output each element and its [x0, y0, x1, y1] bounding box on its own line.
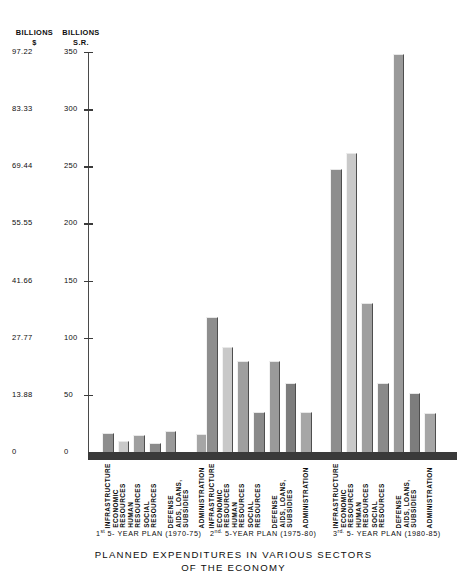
category-label-line: RESOURCES — [119, 483, 126, 528]
category-label: HUMANRESOURCES — [356, 483, 371, 528]
plan-captions: 1st 5- YEAR PLAN (1970-75)2nd. 5-YEAR PL… — [88, 528, 463, 542]
y-tick-label-dollars: 97.22 — [12, 47, 54, 57]
y-tick-label-dollars: 13.88 — [12, 390, 54, 400]
category-label-line: SOCIAL — [247, 483, 254, 528]
x-axis-baseline — [88, 452, 457, 460]
bar — [206, 317, 218, 452]
category-label-line: ADMINISTRATION — [302, 467, 309, 528]
category-label-line: SOCIAL — [371, 483, 378, 528]
category-label: ECONOMICRESOURCES — [340, 483, 355, 528]
chart-figure: BILLIONS $ BILLIONS S.R. 97.2235083.3330… — [0, 0, 467, 581]
y-tick-label-dollars: 41.66 — [12, 276, 54, 286]
category-label-line: SUBSIDIES — [410, 480, 417, 528]
category-label: INFRASTRUCTURE — [332, 463, 339, 528]
category-label: ECONOMICRESOURCES — [112, 483, 127, 528]
category-label-line: DEFENSE — [270, 495, 277, 528]
category-label-line: RESOURCES — [223, 483, 230, 528]
category-label-line: RESOURCES — [151, 483, 158, 528]
figure-title-line2: OF THE ECONOMY — [0, 561, 467, 574]
figure-title: PLANNED EXPENDITURES IN VARIOUS SECTORS … — [0, 548, 467, 574]
category-label-line: RESOURCES — [363, 483, 370, 528]
plan-caption: 1st 5- YEAR PLAN (1970-75) — [96, 528, 201, 538]
category-label: DEFENSE — [394, 495, 401, 528]
category-label-line: ADMINISTRATION — [426, 467, 433, 528]
bar — [269, 361, 281, 452]
plan-caption-text: 5- YEAR PLAN (1970-75) — [105, 529, 201, 538]
category-label: SOCIALRESOURCES — [143, 483, 158, 528]
bar — [330, 169, 342, 452]
bar — [300, 412, 312, 452]
category-label-line: AIDS, LOANS, — [175, 480, 182, 528]
category-label: ADMINISTRATION — [302, 467, 309, 528]
category-label-line: RESOURCES — [255, 483, 262, 528]
bars-layer — [88, 52, 457, 452]
category-label: INFRASTRUCTURE — [208, 463, 215, 528]
plan-caption-text: 5-YEAR PLAN (1975-80) — [222, 529, 316, 538]
category-labels: INFRASTRUCTUREECONOMICRESOURCESHUMANRESO… — [88, 460, 457, 528]
bar — [424, 413, 436, 452]
category-label-line: AIDS, LOANS, — [403, 480, 410, 528]
category-label: HUMANRESOURCES — [128, 483, 143, 528]
plan-caption: 2nd. 5-YEAR PLAN (1975-80) — [210, 528, 316, 538]
category-label: AIDS, LOANS,SUBSIDIES — [403, 480, 418, 528]
bar — [409, 393, 421, 452]
category-label-line: INFRASTRUCTURE — [104, 463, 111, 528]
category-label: ECONOMICRESOURCES — [216, 483, 231, 528]
y-tick-label-dollars: 0 — [12, 447, 54, 457]
category-label: SOCIALRESOURCES — [247, 483, 262, 528]
plan-caption: 3rd. 5- YEAR PLAN (1980-85) — [333, 528, 441, 538]
bar — [346, 153, 358, 452]
category-label: ADMINISTRATION — [426, 467, 433, 528]
category-label: DEFENSE — [166, 495, 173, 528]
bar — [222, 347, 234, 452]
category-label-line: ECONOMIC — [216, 483, 223, 528]
category-label-line: DEFENSE — [394, 495, 401, 528]
y-tick-label-dollars: 27.77 — [12, 333, 54, 343]
bar — [102, 433, 114, 452]
category-label-line: AIDS, LOANS, — [279, 480, 286, 528]
bar — [237, 361, 249, 452]
category-label: HUMANRESOURCES — [232, 483, 247, 528]
category-label-line: SOCIAL — [143, 483, 150, 528]
category-label: AIDS, LOANS,SUBSIDIES — [279, 480, 294, 528]
category-label-line: RESOURCES — [379, 483, 386, 528]
category-label: INFRASTRUCTURE — [104, 463, 111, 528]
category-label-line: ECONOMIC — [112, 483, 119, 528]
category-label-line: SUBSIDIES — [182, 480, 189, 528]
category-label-line: ADMINISTRATION — [198, 467, 205, 528]
bar — [133, 435, 145, 452]
y-tick-label-dollars: 83.33 — [12, 104, 54, 114]
category-label-line: SUBSIDIES — [286, 480, 293, 528]
category-label-line: RESOURCES — [347, 483, 354, 528]
bar — [377, 383, 389, 452]
bar — [253, 412, 265, 452]
figure-title-line1: PLANNED EXPENDITURES IN VARIOUS SECTORS — [95, 549, 373, 560]
category-label-line: INFRASTRUCTURE — [208, 463, 215, 528]
category-label-line: ECONOMIC — [340, 483, 347, 528]
y-tick-label-dollars: 69.44 — [12, 161, 54, 171]
bar — [118, 441, 130, 452]
category-label: SOCIALRESOURCES — [371, 483, 386, 528]
category-label: DEFENSE — [270, 495, 277, 528]
bar — [285, 383, 297, 452]
plot-area — [88, 52, 457, 452]
y-tick-label-dollars: 55.55 — [12, 218, 54, 228]
category-label-line: RESOURCES — [239, 483, 246, 528]
category-label-line: INFRASTRUCTURE — [332, 463, 339, 528]
category-label-line: RESOURCES — [135, 483, 142, 528]
category-label: ADMINISTRATION — [198, 467, 205, 528]
category-label: AIDS, LOANS,SUBSIDIES — [175, 480, 190, 528]
bar — [393, 54, 405, 452]
plan-caption-text: 5- YEAR PLAN (1980-85) — [344, 529, 440, 538]
bar — [165, 431, 177, 452]
bar — [361, 303, 373, 452]
bar — [149, 443, 161, 452]
category-label-line: DEFENSE — [166, 495, 173, 528]
